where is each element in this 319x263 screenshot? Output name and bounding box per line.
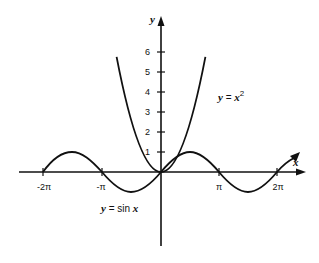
y-tick-label: 3 — [145, 107, 150, 117]
y-tick-label: 6 — [145, 47, 150, 57]
y-axis-arrow-icon — [158, 16, 165, 26]
x-tick-label: 2π — [272, 182, 283, 192]
x-tick-label: π — [216, 182, 222, 192]
x-tick-label: -π — [96, 182, 105, 192]
y-tick-label: 4 — [145, 87, 150, 97]
y-tick-label: 1 — [145, 147, 150, 157]
x-tick-label: -2π — [37, 182, 51, 192]
y-tick-label: 5 — [145, 67, 150, 77]
parabola-label: y = x2 — [216, 89, 245, 103]
x-axis-arrow-icon — [296, 169, 306, 176]
sine-arrow-icon — [290, 152, 300, 162]
y-axis-label: y — [148, 13, 155, 25]
graph: 1 2 3 4 5 6 -2π -π π 2π y x y = x2 y = s… — [0, 0, 319, 263]
y-tick-label: 2 — [145, 127, 150, 137]
sine-label: y = sin x — [99, 202, 139, 214]
